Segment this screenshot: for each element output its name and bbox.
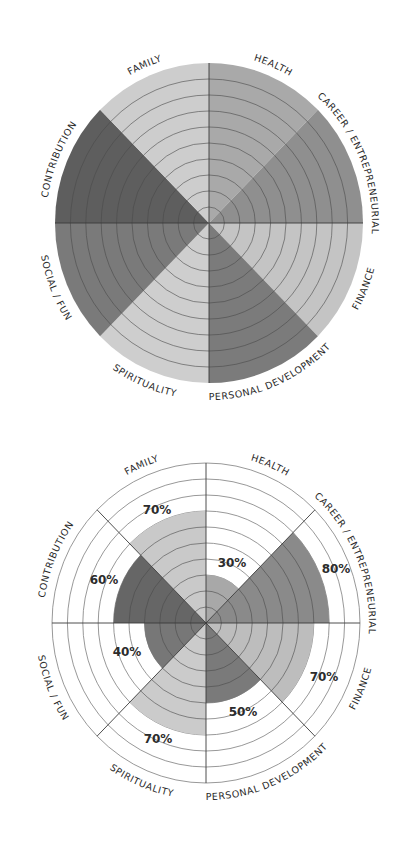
sector-fill (206, 532, 329, 623)
value-label-career-entrepreneurial: 80% (322, 562, 351, 576)
value-label-health: 30% (218, 556, 247, 570)
value-label-contribution: 60% (90, 573, 119, 587)
value-label-spirituality: 70% (144, 732, 173, 746)
value-label-personal-development: 50% (229, 705, 258, 719)
category-label-health: HEALTH (250, 452, 292, 478)
wheel-bottom-scored: HEALTHCAREER / ENTREPRENEURIALFINANCEPER… (36, 452, 378, 802)
value-label-family: 70% (143, 503, 172, 517)
wheel-top-blank-template: HEALTHCAREER / ENTREPRENEURIALFINANCEPER… (39, 52, 381, 402)
category-label-family: FAMILY (122, 452, 160, 477)
category-label-finance: FINANCE (347, 666, 374, 712)
sector-career-entrepreneurial (206, 532, 329, 623)
value-label-social-fun: 40% (113, 645, 142, 659)
wheel-of-life-figure: HEALTHCAREER / ENTREPRENEURIALFINANCEPER… (0, 0, 410, 855)
category-label-social-fun: SOCIAL / FUN (36, 654, 71, 722)
category-label-spirituality: SPIRITUALITY (108, 761, 175, 798)
value-label-finance: 70% (310, 670, 339, 684)
